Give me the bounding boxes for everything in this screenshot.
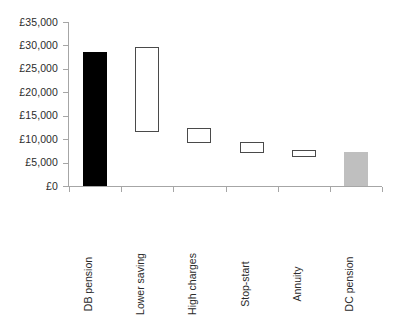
x-axis-tick-mark [330,187,331,192]
x-axis-label-slot: DB pension [87,192,103,284]
x-axis-category-label: DB pension [81,257,95,311]
x-axis-tick-mark [121,187,122,192]
x-axis-category-label: Stop-start [238,261,252,307]
x-axis-category-label: Annuity [290,266,304,301]
x-axis-label-slot: Lower saving [139,192,155,284]
plot-area [69,22,382,186]
y-axis-tick-label: £30,000 [0,40,58,51]
x-axis-label-slot: Annuity [296,192,312,284]
x-axis-tick-mark [226,187,227,192]
y-axis-tick-label: £10,000 [0,134,58,145]
x-axis-tick-mark [69,187,70,192]
bar-dc-pension [344,152,368,186]
bar-high-charges [187,128,211,143]
y-axis-tick-label: £20,000 [0,87,58,98]
x-axis-label-slot: High charges [191,192,207,284]
x-axis-category-label: DC pension [342,257,356,312]
bar-stop-start [240,142,264,153]
x-axis-tick-mark [382,187,383,192]
x-axis-tick-mark [278,187,279,192]
y-axis-tick-label: £0 [0,181,58,192]
y-axis-tick-label: £5,000 [0,157,58,168]
bar-lower-saving [135,47,159,132]
y-axis-tick-label: £35,000 [0,17,58,28]
x-axis-label-slot: Stop-start [244,192,260,284]
bar-db-pension [83,52,107,186]
x-axis-label-slot: DC pension [348,192,364,284]
x-axis-tick-mark [173,187,174,192]
y-axis-tick-label: £25,000 [0,63,58,74]
y-axis-tick-label: £15,000 [0,110,58,121]
bar-annuity [292,150,316,157]
x-axis-category-label: Lower saving [133,253,147,315]
x-axis-category-label: High charges [185,253,199,315]
